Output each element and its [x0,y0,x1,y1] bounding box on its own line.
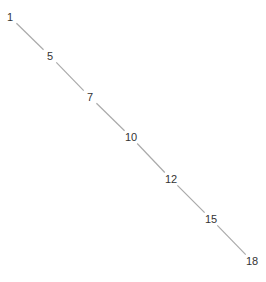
node-label: 10 [125,131,137,143]
node-label: 12 [165,173,177,185]
path-segment [177,185,204,212]
path-segment [96,103,124,130]
path-segment [217,225,245,254]
path-segment [56,62,83,90]
node-label: 7 [87,91,93,103]
path-segment [16,23,43,49]
path-segment [137,144,165,173]
node-label: 15 [205,213,217,225]
node-label: 5 [47,50,53,62]
diagram-canvas: 1 5 7 10 12 15 18 [0,0,266,282]
node-label: 18 [246,255,258,267]
node-label: 1 [7,11,13,23]
